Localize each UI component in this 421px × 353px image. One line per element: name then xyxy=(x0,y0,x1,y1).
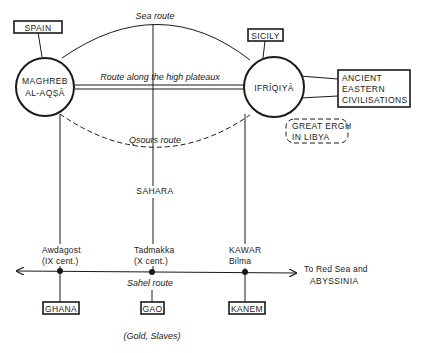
tadmakka-name: Tadmakka xyxy=(134,245,174,255)
sicily-label: SICILY xyxy=(251,31,280,41)
high-plateaux-route-label: Route along the high plateaux xyxy=(100,72,220,82)
great-ergh-line2: IN LIBYA xyxy=(292,132,330,142)
kanem-label: KANEM xyxy=(231,304,263,314)
qsours-route-label: Qsours route xyxy=(129,135,181,145)
kawar-name: KAWAR xyxy=(229,245,262,255)
awdagost-note: (IX cent.) xyxy=(42,256,78,266)
awdagost-name: Awdagost xyxy=(42,245,81,255)
ghana-label: GHANA xyxy=(45,304,77,314)
sicily-connector xyxy=(263,41,265,58)
sahel-route-label: Sahel route xyxy=(127,278,173,288)
great-ergh-line1: GREAT ERGH xyxy=(292,121,351,131)
maghreb-label-line1: MAGHREB xyxy=(22,76,68,86)
tadmakka-node xyxy=(149,269,155,275)
maghreb-label-line2: AL-AQṢĀ xyxy=(25,88,65,98)
sea-route-arc xyxy=(62,24,250,60)
ifriqiya-east-line-bottom xyxy=(300,96,338,98)
spain-label: SPAIN xyxy=(25,23,52,33)
destination-line1: To Red Sea and xyxy=(304,264,368,274)
gao-label: GAO xyxy=(142,304,162,314)
sea-route-label: Sea route xyxy=(135,11,174,21)
maghreb-hub-circle xyxy=(16,58,74,116)
ifriqiya-east-line-top xyxy=(300,76,338,79)
sahara-label: SAHARA xyxy=(136,186,173,196)
ancient-eastern-line3: CIVILISATIONS xyxy=(342,95,408,105)
goods-label: (Gold, Slaves) xyxy=(123,331,180,341)
spain-connector xyxy=(38,32,42,57)
ancient-eastern-line1: ANCIENT xyxy=(342,73,382,83)
tadmakka-note: (X cent.) xyxy=(134,256,168,266)
ifriqiya-label: IFRĪQIYĀ xyxy=(254,83,294,93)
destination-line2: ABYSSINIA xyxy=(310,276,358,286)
ancient-eastern-line2: EASTERN xyxy=(342,84,385,94)
kawar-note: Bilma xyxy=(229,256,251,266)
trade-routes-diagram: MAGHREB AL-AQṢĀ IFRĪQIYĀ SPAIN SICILY AN… xyxy=(0,0,421,353)
